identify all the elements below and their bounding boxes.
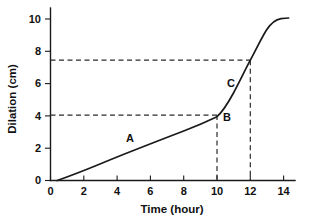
segment-label-c: C	[227, 77, 235, 89]
x-tick-label: 4	[114, 185, 121, 197]
segment-label-a: A	[126, 132, 134, 144]
x-tick-label: 6	[147, 185, 153, 197]
dilation-curve	[57, 18, 288, 181]
y-axis-tick-labels: 0 2 4 6 8 10	[29, 13, 42, 187]
guide-lines	[51, 60, 251, 180]
x-axis-title: Time (hour)	[140, 203, 203, 215]
x-tick-label: 0	[47, 185, 53, 197]
chart-svg: 0 2 4 6 8 10 0 2 4 6 8 10 12 14 A	[0, 0, 309, 224]
x-axis-ticks	[51, 176, 284, 181]
segment-label-b: B	[223, 111, 231, 123]
y-tick-label: 10	[29, 13, 41, 25]
x-tick-label: 10	[211, 185, 223, 197]
x-tick-label: 14	[277, 185, 290, 197]
y-tick-label: 0	[35, 174, 41, 186]
y-axis-title: Dilation (cm)	[6, 64, 18, 134]
x-tick-label: 8	[181, 185, 187, 197]
dilation-time-chart: 0 2 4 6 8 10 0 2 4 6 8 10 12 14 A	[0, 0, 309, 224]
y-tick-label: 4	[35, 110, 42, 122]
y-tick-label: 6	[35, 77, 41, 89]
x-tick-label: 12	[244, 185, 256, 197]
y-tick-label: 2	[35, 142, 41, 154]
x-tick-label: 2	[81, 185, 87, 197]
y-tick-label: 8	[35, 45, 41, 57]
x-axis-tick-labels: 0 2 4 6 8 10 12 14	[47, 185, 290, 197]
y-axis-ticks	[45, 19, 51, 181]
